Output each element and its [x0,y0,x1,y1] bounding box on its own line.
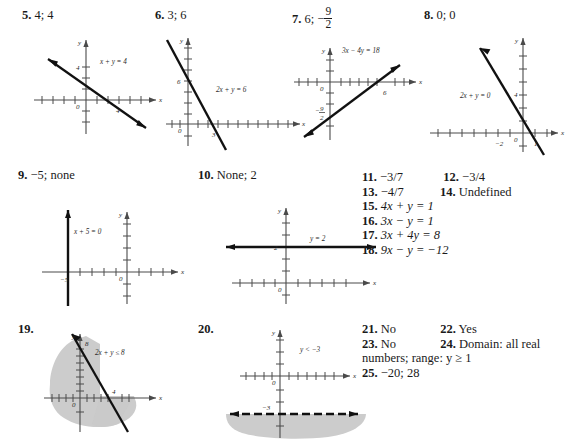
answer-23-text: No [381,337,396,351]
exercise-5-answer: 4; 4 [35,8,54,22]
exercise-10-heading: 10. None; 2 [198,168,257,182]
exercise-5-heading: 5. 4; 4 [22,8,54,22]
exercise-7-answer-fraction: 92 [324,6,332,30]
exercise-5-graph: 4 4 0 x y x + y = 4 [28,28,178,138]
exercise-20-y-intercept-label: −3 [262,404,271,412]
answer-row: 17. 3x + 4y = 8 [362,228,512,243]
exercise-7-answer-prefix: 6; [305,12,315,26]
answer-24-text: Domain: all real [459,337,540,351]
exercise-8-answer: 0; 0 [437,8,456,22]
answer-22-number: 22. [440,322,456,336]
exercise-20-x-axis-label: x [352,372,357,380]
answer-16-number: 16. [362,214,378,228]
exercise-19-heading: 19. [18,322,34,336]
answer-list-21-25: 21. No 22. Yes 23. No 24. Domain: all re… [362,322,540,380]
exercise-8-heading: 8. 0; 0 [424,8,456,22]
exercise-20-shaded-region [226,414,366,439]
exercise-7-answer-sign: − [317,12,324,26]
answer-23-number: 23. [362,337,378,351]
exercise-6-x-intercept-label: 3 [211,131,216,139]
answer-12-number: 12. [443,170,459,184]
answer-11-text: −3/7 [380,170,403,184]
answer-key-page: 5. 4; 4 [0,0,577,445]
exercise-10-y-intercept-label: 2 [274,244,278,252]
exercise-8-y-axis-label: y [514,37,519,45]
answer-25-number: 25. [362,366,378,380]
fraction-numerator: 9 [324,6,332,18]
exercise-8-graph: −2 1 4 0 x y 2x + y = 0 [410,30,575,155]
exercise-8-x-axis-label: x [560,129,565,137]
exercise-20-heading: 20. [198,322,214,336]
exercise-5-y-intercept-label: 4 [76,64,80,72]
exercise-6-heading: 6. 3; 6 [155,8,187,22]
answer-13-number: 13. [362,185,378,199]
exercise-20-origin-label: 0 [272,379,276,387]
exercise-9-y-axis-label: y [118,211,123,219]
answer-14-number: 14. [440,185,456,199]
exercise-6-number: 6. [155,8,164,22]
exercise-7-number: 7. [292,12,301,26]
exercise-6-graph: 6 3 0 x y 2x + y = 6 [160,28,310,150]
exercise-9-origin-label: 0 [119,275,123,283]
exercise-6-y-intercept-label: 6 [177,78,181,86]
exercise-6-origin-label: 0 [178,127,182,135]
exercise-10-x-axis-label: x [372,279,377,287]
exercise-7-y-axis-label: y [321,47,326,55]
answer-22-text: Yes [459,322,477,336]
exercise-9-heading: 9. −5; none [18,168,75,182]
answer-15-number: 15. [362,199,378,213]
exercise-8-tick-neg2: −2 [495,140,504,148]
exercise-5-origin-label: 0 [76,103,80,111]
exercise-20-equation-label: y < −3 [299,346,320,354]
exercise-9-equation-label: x + 5 = 0 [73,228,102,236]
exercise-7-y-intercept-fraction: − 9 2 [315,105,325,122]
answer-16-text: 3x − y = 1 [381,214,434,228]
answer-18-number: 18. [362,243,378,257]
exercise-19-y-intercept-label: 8 [85,340,89,348]
exercise-10-y-axis-label: y [277,207,282,215]
exercise-10-answer: None; 2 [217,168,257,182]
exercise-19-x-axis-label: x [158,394,163,402]
answer-25-text: −20; 28 [381,366,420,380]
exercise-5-x-intercept-label: 4 [116,107,120,115]
exercise-5-equation-label: x + y = 4 [99,58,127,66]
exercise-6-answer: 3; 6 [168,8,187,22]
exercise-9-x-axis-label: x [180,268,185,276]
y-intercept-numerator: 9 [320,105,324,113]
answer-list-11-18: 11. −3/7 12. −3/4 13. −4/7 14. Undefined… [362,170,512,257]
answer-21-number: 21. [362,322,378,336]
exercise-19-x-intercept-label: 4 [112,388,116,396]
answer-11-number: 11. [362,170,377,184]
exercise-20-y-axis-label: y [271,329,276,337]
exercise-10-origin-label: 0 [278,286,282,294]
answer-24-number: 24. [440,337,456,351]
exercise-9-answer: −5; none [31,168,75,182]
exercise-19-graph: 8 4 0 x y 2x + y ≤ 8 [38,320,188,442]
answer-row: 23. No 24. Domain: all real [362,337,540,352]
exercise-20-number: 20. [198,322,214,336]
y-intercept-denominator: 2 [320,114,324,122]
exercise-8-tick-4: 4 [514,91,518,99]
exercise-20-graph: −3 0 x y y < −3 [218,320,378,442]
exercise-19-equation-label: 2x + y ≤ 8 [95,349,125,357]
exercise-19-number: 19. [18,322,34,336]
exercise-19-origin-label: 0 [72,401,76,409]
answer-row: 13. −4/7 14. Undefined [362,185,512,200]
exercise-10-number: 10. [198,168,214,182]
exercise-7-equation-label: 3x − 4y = 18 [341,47,380,55]
answer-row: 21. No 22. Yes [362,322,540,337]
exercise-6-y-axis-label: y [179,37,184,45]
exercise-8-tick-1: 1 [534,140,538,148]
answer-17-text: 3x + 4y = 8 [381,228,440,242]
answer-15-text: 4x + y = 1 [381,199,434,213]
answer-row: 25. −20; 28 [362,366,540,381]
exercise-7-heading: 7. 6; −92 [292,6,332,30]
exercise-6-equation-label: 2x + y = 6 [216,86,247,94]
exercise-10-equation-label: y = 2 [309,235,326,243]
answer-18-text: 9x − y = −12 [381,243,449,257]
exercise-9-graph: −5 0 x y x + 5 = 0 [20,188,190,306]
exercise-8-number: 8. [424,8,433,22]
answer-12-text: −3/4 [462,170,485,184]
exercise-9-number: 9. [18,168,27,182]
answer-row: 11. −3/7 12. −3/4 [362,170,512,185]
